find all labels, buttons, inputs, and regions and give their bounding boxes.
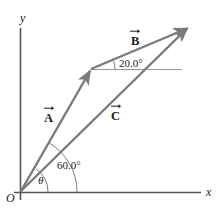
vector-b-label: B <box>131 35 139 48</box>
vector-c-letter: C <box>111 110 120 123</box>
vector-arrow-accent-icon <box>130 28 141 34</box>
vector-a-label: A <box>44 112 53 125</box>
angle-label-theta: θ <box>38 175 43 186</box>
vector-a-letter: A <box>44 112 53 125</box>
vector-a-shaft <box>21 71 90 191</box>
y-axis-label: y <box>20 12 25 24</box>
vector-b-letter: B <box>131 35 139 48</box>
vector-arrow-accent-icon <box>110 103 121 109</box>
x-axis-label: x <box>206 186 211 198</box>
vector-diagram-figure: y x O 60.0° θ 20.0° A B C <box>0 0 223 212</box>
angle-arc-20 <box>114 61 115 69</box>
vector-c-label: C <box>111 110 120 123</box>
vector-arrow-accent-icon <box>43 105 54 111</box>
angle-label-60: 60.0° <box>57 160 81 171</box>
angle-label-20: 20.0° <box>119 58 143 69</box>
origin-label: O <box>6 192 15 204</box>
